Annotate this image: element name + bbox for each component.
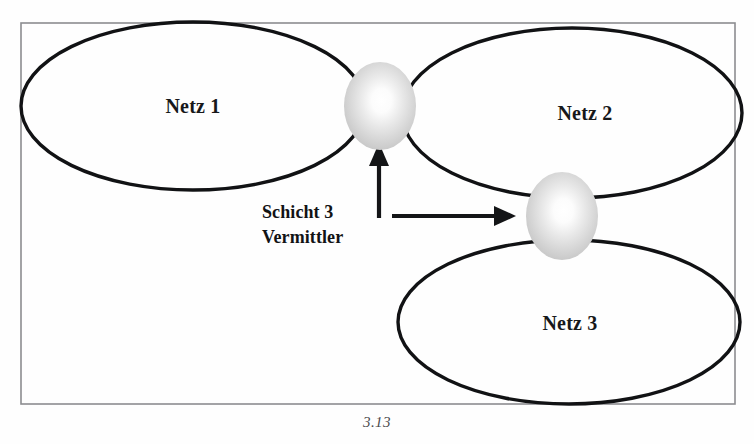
annotation-line-2: Vermittler	[262, 227, 343, 247]
network-label-netz-3: Netz 3	[542, 312, 597, 334]
network-label-netz-1: Netz 1	[165, 95, 220, 117]
network-label-netz-2: Netz 2	[557, 102, 612, 124]
annotation-line-1: Schicht 3	[262, 202, 333, 222]
figure-container: Netz 1 Netz 2 Netz 3 Schicht 3 Vermittle…	[0, 0, 754, 444]
figure-caption: 3.13	[362, 414, 391, 430]
network-diagram: Netz 1 Netz 2 Netz 3 Schicht 3 Vermittle…	[0, 0, 754, 444]
arrow-right-head-icon	[494, 206, 516, 226]
router-sphere-upper-icon[interactable]	[344, 62, 416, 150]
annotation-label-group: Schicht 3 Vermittler	[262, 202, 343, 247]
annotation-arrows-group	[369, 143, 516, 226]
router-sphere-lower-icon[interactable]	[526, 172, 598, 260]
